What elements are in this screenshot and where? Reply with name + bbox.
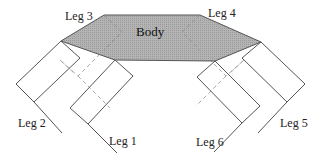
leg-4-label: Leg 4 <box>208 6 236 20</box>
leg-6-label: Leg 6 <box>196 135 224 149</box>
leg-2-label: Leg 2 <box>18 116 46 130</box>
body-label: Body <box>136 24 165 39</box>
leg-1-label: Leg 1 <box>109 134 137 148</box>
leg-5-label: Leg 5 <box>280 116 308 130</box>
hexapod-diagram: Body Leg 3 Leg 4 Leg 2 Leg 1 Leg 6 Leg 5 <box>0 0 321 162</box>
leg-3-label: Leg 3 <box>65 9 93 23</box>
